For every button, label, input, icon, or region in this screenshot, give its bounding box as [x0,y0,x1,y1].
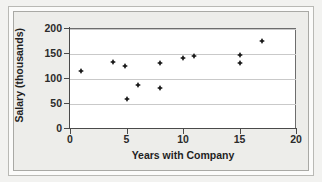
gridline-y-100 [70,79,296,80]
data-point [122,63,128,69]
y-axis-tick-labels: 050100150200 [0,0,62,182]
y-tick-label-150: 150 [44,48,62,59]
gridline-y-200 [70,29,296,30]
data-point [157,85,163,91]
data-point [124,96,130,102]
y-axis-title: Salary (thousands) [14,20,25,130]
gridline-y-50 [70,104,296,105]
data-point [110,59,116,65]
plot-area [70,28,296,128]
x-tick-label-15: 15 [227,134,253,145]
y-tick-0 [64,128,69,129]
data-point [135,82,141,88]
y-tick-100 [64,78,69,79]
y-tick-150 [64,53,69,54]
y-axis-line [69,27,70,129]
x-tick-label-10: 10 [170,134,196,145]
x-tick-label-5: 5 [114,134,140,145]
y-tick-label-200: 200 [44,23,62,34]
figure-frame: 050100150200 05101520 Years with Company… [0,0,322,182]
data-point [191,53,197,59]
x-tick-label-20: 20 [283,134,309,145]
data-point [237,52,243,58]
y-tick-50 [64,103,69,104]
scatter-chart: 050100150200 05101520 Years with Company… [0,0,322,182]
data-point [157,60,163,66]
y-tick-200 [64,28,69,29]
x-tick-label-0: 0 [57,134,83,145]
data-point [78,68,84,74]
y-tick-label-0: 0 [56,123,62,134]
y-tick-label-100: 100 [44,73,62,84]
data-point [237,60,243,66]
data-point [180,55,186,61]
data-point [259,38,265,44]
y-tick-label-50: 50 [50,98,62,109]
x-axis-title: Years with Company [70,150,296,161]
